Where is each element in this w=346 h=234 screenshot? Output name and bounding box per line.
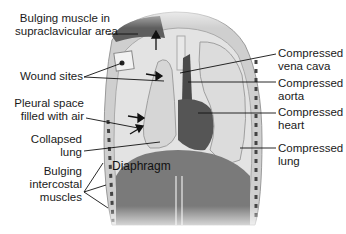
label-line: Compressed [278, 77, 343, 90]
label-line: Wound sites [15, 70, 83, 83]
label-line: heart [278, 119, 343, 132]
label-line: Bulging [15, 165, 82, 178]
label-compressed-lung: Compressed lung [278, 142, 343, 168]
label-collapsed-lung: Collapsed lung [20, 133, 82, 159]
label-line: muscles [15, 191, 82, 204]
label-line: vena cava [278, 60, 343, 73]
label-diaphragm: Diaphragm [112, 159, 171, 173]
label-line: Bulging muscle in [15, 12, 110, 25]
label-heart: Compressed heart [278, 106, 343, 132]
label-line: intercostal [15, 178, 82, 191]
label-line: Compressed [278, 106, 343, 119]
label-bulging-muscle: Bulging muscle in supraclavicular area [15, 12, 110, 38]
label-wound-sites: Wound sites [15, 70, 83, 83]
label-line: Compressed [278, 47, 343, 60]
label-line: lung [20, 146, 82, 159]
label-line: filled with air [10, 110, 84, 123]
label-pleural-space: Pleural space filled with air [10, 97, 84, 123]
label-line: Pleural space [10, 97, 84, 110]
label-line: Compressed [278, 142, 343, 155]
label-line: aorta [278, 90, 343, 103]
tension-pneumothorax-diagram: Bulging muscle in supraclavicular area W… [0, 0, 346, 234]
label-line: supraclavicular area [15, 25, 110, 38]
label-line: Collapsed [20, 133, 82, 146]
label-aorta: Compressed aorta [278, 77, 343, 103]
label-intercostal-muscles: Bulging intercostal muscles [15, 165, 82, 204]
label-vena-cava: Compressed vena cava [278, 47, 343, 73]
label-line: lung [278, 155, 343, 168]
